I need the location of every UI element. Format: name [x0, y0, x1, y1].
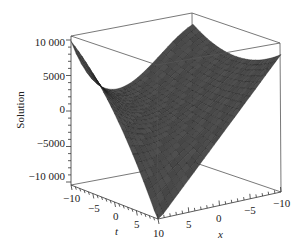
t-tick-label: −10: [63, 193, 80, 204]
x-tick: [237, 198, 238, 201]
surface-patch: [75, 46, 84, 62]
x-tick: [256, 194, 257, 197]
z-tick-label: 10 000: [5, 37, 65, 48]
x-tick: [262, 193, 263, 196]
x-tick: [164, 215, 165, 218]
t-tick-label: −5: [88, 203, 100, 214]
x-tick: [201, 207, 202, 210]
x-tick: [213, 204, 214, 207]
z-tick-label: −5000: [5, 138, 65, 149]
t-axis-title: t: [115, 225, 118, 237]
x-tick-label: 0: [216, 213, 222, 224]
t-tick: [158, 219, 159, 224]
x-tick-label: 5: [186, 219, 192, 230]
x-tick: [250, 194, 251, 199]
x-axis-title: x: [218, 228, 223, 240]
x-tick: [182, 211, 183, 214]
surface-patch: [71, 41, 80, 57]
x-tick: [225, 201, 226, 204]
z-axis: [66, 36, 71, 185]
x-tick: [274, 190, 275, 193]
x-tick: [158, 214, 159, 219]
x-tick: [176, 212, 177, 215]
x-tick: [281, 187, 282, 192]
t-tick-label: 5: [134, 219, 140, 230]
z-tick-label: −10 000: [5, 171, 65, 182]
z-tick-label: 5000: [5, 71, 65, 82]
z-axis-title: Solution: [14, 85, 26, 135]
x-tick: [268, 192, 269, 195]
solution-surface: [71, 24, 281, 219]
x-tick-label: −5: [244, 205, 256, 216]
x-tick-label: −10: [273, 198, 290, 209]
t-tick-label: 10: [153, 228, 164, 239]
x-tick: [207, 205, 208, 208]
x-tick: [244, 197, 245, 200]
t-tick-label: 0: [113, 211, 119, 222]
x-tick: [231, 200, 232, 203]
x-tick: [194, 208, 195, 211]
x-tick: [170, 213, 171, 216]
x-tick: [188, 207, 189, 212]
x-tick: [219, 201, 220, 206]
